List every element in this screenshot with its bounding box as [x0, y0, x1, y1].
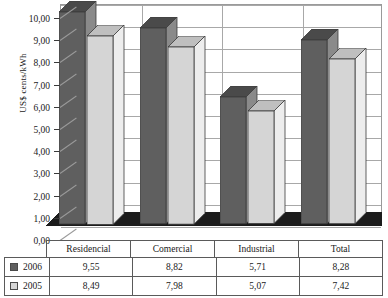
y-axis-tick-label: 10,00 [29, 14, 50, 24]
y-axis-tick-label: 5,00 [33, 125, 50, 135]
bar-2005-Industrial [248, 102, 274, 226]
bar-shape [248, 100, 287, 226]
bar-shape [168, 36, 207, 226]
legend-swatch-icon [10, 282, 18, 290]
bar-2006-Total [301, 31, 327, 226]
bar-2006-Comercial [140, 19, 166, 226]
bar-shape [329, 48, 368, 226]
gridline-horizontal [61, 227, 381, 228]
legend-entry-2006: 2006 [5, 258, 50, 276]
legend-swatch-icon [10, 263, 18, 271]
y-axis-tick-label: 8,00 [33, 58, 50, 68]
chart-figure: US$ cents/kWh 0,001,002,003,004,005,006,… [0, 0, 388, 298]
gridline-horizontal [61, 5, 381, 6]
bar-2005-Comercial [168, 38, 194, 226]
table-row: 20058,497,985,077,42 [5, 276, 382, 295]
y-axis-tick-label: 4,00 [33, 147, 50, 157]
y-axis-tick-label: 3,00 [33, 169, 50, 179]
table-row: 20069,558,825,718,28 [5, 257, 382, 276]
table-cell-2006-industrial: 5,71 [217, 258, 300, 276]
y-axis-tick-label: 7,00 [33, 81, 50, 91]
table-cell-2006-total: 8,28 [300, 258, 382, 276]
legend-entry-2005: 2005 [5, 277, 50, 295]
category-label-residencial: Residencial [47, 241, 131, 257]
y-axis-tick-label: 1,00 [33, 214, 50, 224]
y-axis-title: US$ cents/kWh [18, 13, 28, 153]
bar-shape [87, 25, 126, 226]
category-label-industrial: Industrial [215, 241, 299, 257]
table-cell-2005-residencial: 8,49 [50, 277, 133, 295]
legend-label: 2006 [23, 262, 42, 272]
legend-label: 2005 [23, 281, 42, 291]
bar-2006-Industrial [220, 88, 246, 226]
category-label-total: Total [299, 241, 382, 257]
data-table: 20069,558,825,718,2820058,497,985,077,42 [4, 257, 383, 296]
plot-area: 0,001,002,003,004,005,006,007,008,009,00… [46, 4, 383, 240]
y-axis-tick-label: 9,00 [33, 36, 50, 46]
bar-2005-Total [329, 50, 355, 226]
bar-2005-Residencial [87, 27, 113, 226]
table-cell-2006-comercial: 8,82 [133, 258, 216, 276]
y-axis-tick-label: 6,00 [33, 103, 50, 113]
table-cell-2005-industrial: 5,07 [217, 277, 300, 295]
category-label-comercial: Comercial [131, 241, 215, 257]
category-axis-row: ResidencialComercialIndustrialTotal [46, 240, 383, 257]
table-cell-2006-residencial: 9,55 [50, 258, 133, 276]
y-axis-tick-label: 2,00 [33, 192, 50, 202]
table-cell-2005-total: 7,42 [300, 277, 382, 295]
table-cell-2005-comercial: 7,98 [133, 277, 216, 295]
